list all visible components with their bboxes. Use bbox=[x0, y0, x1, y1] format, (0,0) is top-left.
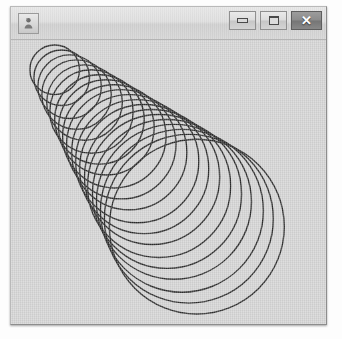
java-app-icon[interactable] bbox=[18, 13, 39, 34]
drawing-canvas bbox=[11, 40, 326, 324]
close-button[interactable]: ✕ bbox=[291, 11, 322, 30]
title-bar[interactable]: ✕ bbox=[11, 7, 326, 40]
maximize-icon bbox=[269, 16, 279, 25]
spiral-circle-14 bbox=[88, 114, 231, 257]
circle-spiral-graphic bbox=[11, 40, 326, 324]
maximize-button[interactable] bbox=[260, 11, 287, 30]
close-icon: ✕ bbox=[301, 14, 312, 27]
application-window: ✕ bbox=[10, 6, 327, 325]
minimize-icon bbox=[237, 18, 248, 23]
spiral-circle-6 bbox=[55, 75, 144, 164]
minimize-button[interactable] bbox=[229, 11, 256, 30]
window-controls: ✕ bbox=[229, 11, 322, 30]
